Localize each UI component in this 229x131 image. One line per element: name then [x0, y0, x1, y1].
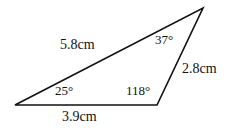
side-label-upper-left: 5.8cm	[60, 38, 95, 52]
angle-label-apex: 37°	[155, 33, 173, 46]
triangle-figure: 5.8cm 37° 2.8cm 25° 118° 3.9cm	[0, 0, 229, 131]
angle-label-left: 25°	[55, 84, 73, 97]
triangle-outline	[15, 8, 203, 105]
angle-label-bottom-right: 118°	[126, 84, 150, 97]
side-label-right: 2.8cm	[182, 62, 217, 76]
side-label-bottom: 3.9cm	[62, 110, 97, 124]
